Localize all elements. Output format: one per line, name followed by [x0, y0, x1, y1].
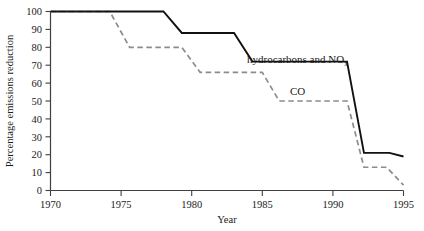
- y-tick-label-90: 90: [32, 24, 43, 35]
- y-tick-label-0: 0: [37, 185, 42, 196]
- y-tick-label-50: 50: [32, 96, 43, 107]
- y-axis-tick-labels: 0 10 20 30 40 50 60 70 80 90 100: [26, 6, 42, 196]
- annotation-hydrocarbons-nox: hydrocarbons and NOx: [247, 53, 348, 68]
- annotation-co: CO: [290, 85, 305, 97]
- emissions-reduction-line-chart: Percentage emissions reduction 0 10 20 3…: [0, 0, 424, 231]
- series-path-co: [51, 12, 404, 186]
- x-tick-label-1970: 1970: [40, 199, 61, 210]
- series-path-hydrocarbons-nox: [51, 12, 404, 157]
- x-tick-label-1975: 1975: [111, 199, 132, 210]
- y-tick-label-100: 100: [26, 6, 42, 17]
- y-tick-label-10: 10: [32, 167, 43, 178]
- y-tick-label-20: 20: [32, 149, 43, 160]
- x-tick-label-1995: 1995: [393, 199, 414, 210]
- chart-container: Percentage emissions reduction 0 10 20 3…: [0, 0, 424, 231]
- x-axis-ticks: [51, 191, 404, 197]
- annotation-hydrocarbons-nox-text: hydrocarbons and NO: [247, 53, 344, 65]
- x-tick-label-1980: 1980: [181, 199, 202, 210]
- y-tick-label-30: 30: [32, 132, 43, 143]
- x-tick-label-1990: 1990: [322, 199, 343, 210]
- y-axis-ticks: [46, 12, 51, 191]
- y-tick-label-80: 80: [32, 42, 43, 53]
- y-tick-label-60: 60: [32, 78, 43, 89]
- y-axis-title: Percentage emissions reduction: [4, 34, 15, 167]
- y-tick-label-70: 70: [32, 60, 43, 71]
- x-tick-label-1985: 1985: [252, 199, 273, 210]
- x-axis-tick-labels: 1970 1975 1980 1985 1990 1995: [40, 199, 414, 210]
- annotation-hydrocarbons-nox-subscript: x: [344, 59, 348, 68]
- y-tick-label-40: 40: [32, 114, 43, 125]
- x-axis-title: Year: [217, 214, 237, 225]
